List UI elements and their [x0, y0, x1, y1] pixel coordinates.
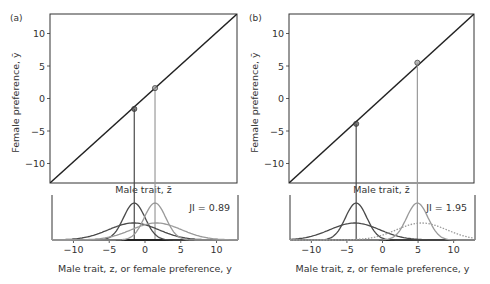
equilibrium-point	[132, 106, 137, 111]
panel-a: (a)−10−50510Female preference, ȳMale tra…	[10, 13, 238, 274]
y-tick-label: 10	[272, 28, 284, 39]
y-tick-label: 0	[39, 93, 45, 104]
x-tick-label: −10	[63, 244, 83, 255]
x-tick-label: 10	[448, 244, 460, 255]
equilibrium-point	[415, 60, 420, 65]
x-tick-label: 5	[178, 244, 184, 255]
equilibrium-point	[354, 121, 359, 126]
y-tick-label: −10	[25, 158, 45, 169]
equilibrium-point	[152, 86, 157, 91]
y-tick-label: −5	[31, 126, 45, 137]
ji-annotation: JI = 1.95	[425, 202, 467, 213]
distribution-curve	[290, 223, 475, 240]
identity-line	[50, 14, 237, 183]
y-axis-label: Female preference, ȳ	[10, 52, 21, 153]
panel-b: (b)−10−50510Female preference, ȳMale tra…	[249, 13, 475, 274]
x-tick-label: 0	[379, 244, 385, 255]
identity-line	[289, 14, 474, 183]
y-axis-label: Female preference, ȳ	[249, 52, 260, 153]
x-tick-label: −10	[301, 244, 321, 255]
y-tick-label: 10	[33, 28, 45, 39]
chart-figure: (a)−10−50510Female preference, ȳMale tra…	[0, 0, 490, 284]
panel-label: (a)	[10, 13, 23, 23]
y-tick-label: 5	[278, 61, 284, 72]
x-tick-label: 10	[210, 244, 222, 255]
ji-annotation: JI = 0.89	[188, 202, 230, 213]
upper-x-axis-label: Male trait, z̄	[115, 184, 171, 195]
y-tick-label: −10	[264, 158, 284, 169]
distribution-curve	[52, 223, 238, 240]
lower-x-axis-label: Male trait, z, or female preference, y	[296, 263, 470, 274]
lower-x-axis-label: Male trait, z, or female preference, y	[58, 263, 232, 274]
y-tick-label: −5	[270, 126, 284, 137]
x-tick-label: −5	[340, 244, 354, 255]
x-tick-label: 5	[415, 244, 421, 255]
distribution-curve	[52, 223, 238, 240]
y-tick-label: 5	[39, 61, 45, 72]
upper-x-axis-label: Male trait, z̄	[353, 184, 409, 195]
x-tick-label: 0	[142, 244, 148, 255]
x-tick-label: −5	[102, 244, 116, 255]
panel-label: (b)	[249, 13, 262, 23]
y-tick-label: 0	[278, 93, 284, 104]
